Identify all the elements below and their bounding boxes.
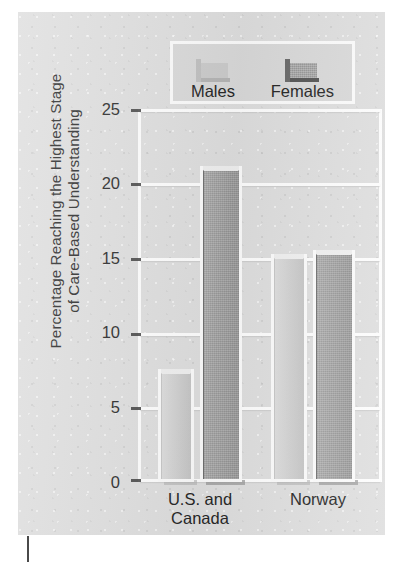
y-axis-title-line-2: of Care-Based Understanding <box>65 109 84 313</box>
bar-us-canada-males <box>158 369 194 482</box>
gridline-25 <box>140 109 380 112</box>
bar-face <box>275 258 307 479</box>
y-axis-tick-labels: 25 20 15 10 5 0 <box>86 12 120 535</box>
bar-bevel-top <box>158 369 194 374</box>
y-tick-label-10: 10 <box>86 324 120 341</box>
y-tick-label-0: 0 <box>86 474 120 491</box>
tick-25 <box>131 109 141 112</box>
y-tick-label-25: 25 <box>86 101 120 118</box>
bar-shadow <box>206 480 245 485</box>
bar-bevel-top <box>200 166 242 171</box>
legend-swatch-females-icon <box>285 59 319 82</box>
bar-shadow <box>319 480 358 485</box>
gridline-20 <box>140 183 380 186</box>
y-tick-label-20: 20 <box>86 175 120 192</box>
legend-item-females: Females <box>271 59 334 101</box>
bar-norway-females <box>313 250 355 482</box>
x-axis-label-line-2: Canada <box>140 509 260 528</box>
bar-face <box>317 254 355 479</box>
legend-label-females: Females <box>271 83 334 100</box>
figure-panel: Percentage Reaching the Highest Stage of… <box>18 12 385 535</box>
y-axis-title-line-1: Percentage Reaching the Highest Stage <box>47 74 66 349</box>
chart-legend: Males Females <box>170 41 355 104</box>
page-margin-tick <box>27 536 29 562</box>
bar-bevel-top <box>271 254 307 259</box>
y-axis-title: Percentage Reaching the Highest Stage of… <box>42 21 88 401</box>
tick-10 <box>131 333 141 336</box>
y-tick-label-15: 15 <box>86 250 120 267</box>
bar-us-canada-females <box>200 166 242 482</box>
x-axis-label-norway: Norway <box>263 490 373 509</box>
tick-0 <box>131 479 141 482</box>
plot-frame-left <box>138 109 141 482</box>
x-axis-label-us-canada: U.S. and Canada <box>140 490 260 528</box>
bar-face <box>162 373 194 479</box>
legend-label-males: Males <box>191 83 235 100</box>
plot-frame-right <box>379 109 382 482</box>
tick-20 <box>131 183 141 186</box>
tick-5 <box>131 407 141 410</box>
x-axis-label-line-1: U.S. and <box>140 490 260 509</box>
legend-item-males: Males <box>191 59 235 101</box>
bar-face <box>204 170 242 479</box>
legend-swatch-males-icon <box>196 59 230 82</box>
bar-bevel-top <box>313 250 355 255</box>
x-axis-label-line-1: Norway <box>263 490 373 509</box>
y-tick-label-5: 5 <box>86 399 120 416</box>
bar-shadow <box>277 480 310 485</box>
bar-norway-males <box>271 254 307 482</box>
tick-15 <box>131 258 141 261</box>
bar-shadow <box>164 480 197 485</box>
plot-area <box>140 109 380 482</box>
